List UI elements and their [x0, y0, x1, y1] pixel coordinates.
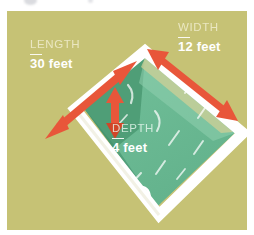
length-label-value: 30 feet — [30, 57, 80, 70]
width-label-value: 12 feet — [178, 40, 221, 53]
length-label-rule — [30, 54, 42, 56]
cropped-icon-artifact-left — [24, 0, 37, 5]
length-label-group: LENGTH 30 feet — [30, 39, 80, 70]
width-label-title: WIDTH — [178, 22, 221, 34]
depth-label-rule — [112, 138, 124, 140]
depth-label-group: DEPTH 4 feet — [112, 123, 154, 154]
cropped-page-artifacts — [0, 0, 254, 11]
depth-label-title: DEPTH — [112, 123, 154, 135]
pool-diagram-frame: LENGTH 30 feet WIDTH 12 feet DEPTH 4 fee… — [0, 0, 254, 235]
length-label-title: LENGTH — [30, 39, 80, 51]
width-label-rule — [178, 37, 190, 39]
cropped-icon-artifact-right — [88, 0, 93, 3]
depth-label-value: 4 feet — [112, 141, 154, 154]
width-label-group: WIDTH 12 feet — [178, 22, 221, 53]
